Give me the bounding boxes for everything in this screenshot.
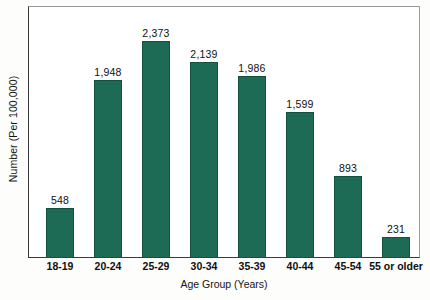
- x-tick-label-40-44: 40-44: [276, 260, 324, 272]
- x-axis-tick-labels: 18-1920-2425-2930-3435-3940-4445-5455 or…: [28, 260, 420, 276]
- bar[interactable]: [382, 237, 410, 258]
- x-tick-label-35-39: 35-39: [228, 260, 276, 272]
- bar-chart-figure: Number (Per 100,000) 5481,9482,3732,1391…: [0, 0, 430, 300]
- y-axis-title-text: Number (Per 100,000): [7, 76, 19, 182]
- bar-value-label: 893: [324, 162, 372, 174]
- bar-group: 2,373: [132, 6, 180, 258]
- bar[interactable]: [94, 80, 122, 258]
- x-tick-label-25-29: 25-29: [132, 260, 180, 272]
- x-tick-label-30-34: 30-34: [180, 260, 228, 272]
- bar-group: 893: [324, 6, 372, 258]
- bar[interactable]: [286, 112, 314, 258]
- x-tick-label-55-or-older: 55 or older: [359, 260, 430, 272]
- x-tick-label-20-24: 20-24: [84, 260, 132, 272]
- bar-value-label: 2,373: [132, 27, 180, 39]
- bar[interactable]: [334, 176, 362, 258]
- x-tick-label-18-19: 18-19: [36, 260, 84, 272]
- bar-value-label: 1,599: [276, 98, 324, 110]
- bar-value-label: 1,986: [228, 62, 276, 74]
- bar[interactable]: [142, 41, 170, 258]
- bar-group: 548: [36, 6, 84, 258]
- bar-group: 231: [372, 6, 420, 258]
- bar[interactable]: [238, 76, 266, 258]
- y-axis-title: Number (Per 100,000): [0, 0, 26, 258]
- bar-value-label: 548: [36, 194, 84, 206]
- bars-layer: 5481,9482,3732,1391,9861,599893231: [28, 6, 420, 258]
- bar-value-label: 1,948: [84, 66, 132, 78]
- bar-value-label: 2,139: [180, 48, 228, 60]
- bar-group: 1,948: [84, 6, 132, 258]
- bar-value-label: 231: [372, 223, 420, 235]
- bar[interactable]: [190, 62, 218, 258]
- bar-group: 2,139: [180, 6, 228, 258]
- bar-group: 1,986: [228, 6, 276, 258]
- bar[interactable]: [46, 208, 74, 258]
- bar-group: 1,599: [276, 6, 324, 258]
- x-axis-title: Age Group (Years): [28, 278, 420, 290]
